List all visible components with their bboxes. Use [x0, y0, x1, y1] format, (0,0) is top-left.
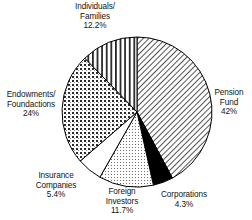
slice-label-foreign-investors: Foreign Investors 11.7% [95, 187, 149, 216]
slice-label-insurance-companies: Insurance Companies 5.4% [20, 171, 92, 200]
pie-chart: Individuals/ Families 12.2% Pension Fund… [0, 0, 252, 220]
slice-label-individuals-families: Individuals/ Families 12.2% [58, 2, 132, 31]
pie-slice-group [62, 37, 212, 187]
slice-label-endowments-foundations: Endowments/ Foundactions 24% [1, 90, 61, 119]
slice-label-pension-fund: Pension Fund 42% [208, 88, 250, 117]
slice-label-corporations: Corporations 4.3% [148, 190, 220, 209]
